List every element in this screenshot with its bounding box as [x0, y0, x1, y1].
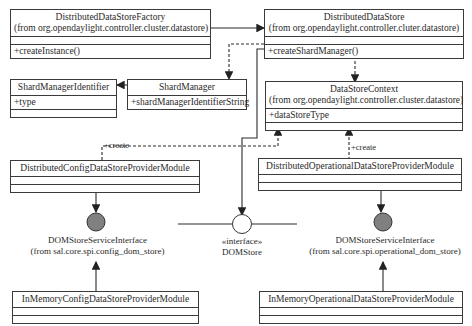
- class-attributes: [265, 37, 463, 45]
- class-operations: [259, 183, 461, 190]
- class-distributed-operational-provider[interactable]: DistributedOperationalDataStoreProviderM…: [258, 158, 462, 191]
- class-operations: [260, 316, 462, 323]
- class-attribute: +dataStoreType: [266, 109, 462, 123]
- class-name: ShardManagerIdentifier: [11, 80, 116, 96]
- class-attribute: +shardManagerIdentifierString: [128, 96, 246, 109]
- class-name: ShardManager: [128, 80, 246, 96]
- class-operation: +createInstance(): [11, 45, 210, 58]
- class-distributed-config-provider[interactable]: DistributedConfigDataStoreProviderModule: [10, 160, 200, 193]
- class-distributed-datastore-factory[interactable]: DistributedDataStoreFactory(from org.ope…: [10, 9, 211, 59]
- class-attributes: [260, 308, 462, 316]
- class-attributes: [11, 37, 210, 45]
- class-name: DataStoreContext: [269, 84, 459, 95]
- class-package: (from org.opendaylight.controller.cluste…: [14, 23, 207, 34]
- class-name: DistributedConfigDataStoreProviderModule: [11, 161, 199, 177]
- class-attributes: [259, 175, 461, 183]
- class-operations: [11, 110, 116, 117]
- class-inmemory-config-provider[interactable]: InMemoryConfigDataStoreProviderModule: [12, 291, 199, 324]
- create-label-right: +create: [351, 142, 376, 152]
- class-name: InMemoryConfigDataStoreProviderModule: [13, 292, 198, 308]
- class-name: DistributedOperationalDataStoreProviderM…: [259, 159, 461, 175]
- class-name: InMemoryOperationalDataStoreProviderModu…: [260, 292, 462, 308]
- class-operation: +createShardManager(): [265, 45, 463, 58]
- operational-interface-label: DOMStoreServiceInterface (from sal.core.…: [305, 235, 465, 256]
- config-interface-label: DOMStoreServiceInterface (from sal.core.…: [30, 235, 165, 256]
- class-operations: [13, 316, 198, 323]
- class-attribute: +type: [11, 96, 116, 110]
- class-operations: [11, 185, 199, 192]
- domstore-interface-circle: [233, 215, 252, 234]
- domstore-interface-label: «interface» DOMStore: [212, 236, 272, 257]
- operational-interface-circle: [374, 213, 392, 231]
- interface-package: (from sal.core.spi.operational_dom_store…: [305, 246, 465, 257]
- class-attributes: [13, 308, 198, 316]
- class-shard-manager-identifier[interactable]: ShardManagerIdentifier +type: [10, 79, 117, 118]
- config-interface-circle: [87, 213, 105, 231]
- interface-name: DOMStoreServiceInterface: [30, 235, 165, 246]
- interface-name: DOMStoreServiceInterface: [305, 235, 465, 246]
- class-attributes: [11, 177, 199, 185]
- interface-package: (from sal.core.spi.config_dom_store): [30, 246, 165, 257]
- class-package: (from org.opendaylight.controller.cluter…: [268, 23, 460, 34]
- interface-stereotype: «interface»: [212, 236, 272, 247]
- class-name: DistributedDataStore: [268, 12, 460, 23]
- class-shard-manager[interactable]: ShardManager +shardManagerIdentifierStri…: [127, 79, 247, 110]
- class-name: DistributedDataStoreFactory: [14, 12, 207, 23]
- create-label-left: +create: [104, 140, 129, 150]
- class-operations: [266, 123, 462, 130]
- class-package: (from org.opendaylight.controller.cluste…: [269, 95, 459, 106]
- class-datastore-context[interactable]: DataStoreContext(from org.opendaylight.c…: [265, 81, 463, 131]
- class-inmemory-operational-provider[interactable]: InMemoryOperationalDataStoreProviderModu…: [259, 291, 463, 324]
- class-distributed-datastore[interactable]: DistributedDataStore(from org.opendaylig…: [264, 9, 464, 59]
- interface-name: DOMStore: [212, 247, 272, 258]
